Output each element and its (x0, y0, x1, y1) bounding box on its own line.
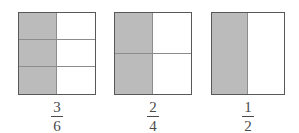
fraction-stack: 1 2 (242, 100, 254, 133)
fraction-cell (115, 54, 153, 95)
fraction-cell (57, 67, 95, 94)
fraction-cell (115, 13, 153, 54)
fraction-cell (212, 13, 248, 94)
fraction-denominator: 2 (242, 118, 254, 133)
fraction-label-1-2: 1 2 (211, 100, 285, 133)
fraction-grid-2-4 (114, 12, 192, 95)
fraction-cell (248, 13, 284, 94)
fraction-bar (147, 116, 159, 117)
fraction-cell (153, 13, 191, 54)
fraction-numerator: 2 (147, 100, 159, 116)
fraction-numerator: 3 (51, 100, 63, 116)
fraction-cell (57, 13, 95, 40)
fraction-cell (153, 54, 191, 95)
fraction-stack: 3 6 (51, 100, 63, 133)
fraction-denominator: 4 (147, 118, 159, 133)
fraction-grid-3-6 (18, 12, 96, 95)
fraction-numerator: 1 (242, 100, 254, 116)
fraction-denominator: 6 (51, 118, 63, 133)
fraction-bar (51, 116, 63, 117)
fraction-model-2-4: 2 4 (114, 0, 192, 133)
fraction-bar (242, 116, 254, 117)
fraction-label-2-4: 2 4 (114, 100, 192, 133)
fraction-cell (19, 13, 57, 40)
fraction-model-3-6: 3 6 (18, 0, 96, 133)
fraction-model-1-2: 1 2 (211, 0, 285, 133)
fraction-models-figure: 3 6 2 4 1 2 (0, 0, 299, 133)
fraction-cell (19, 40, 57, 67)
fraction-grid-1-2 (211, 12, 285, 95)
fraction-label-3-6: 3 6 (18, 100, 96, 133)
fraction-stack: 2 4 (147, 100, 159, 133)
fraction-cell (19, 67, 57, 94)
fraction-cell (57, 40, 95, 67)
